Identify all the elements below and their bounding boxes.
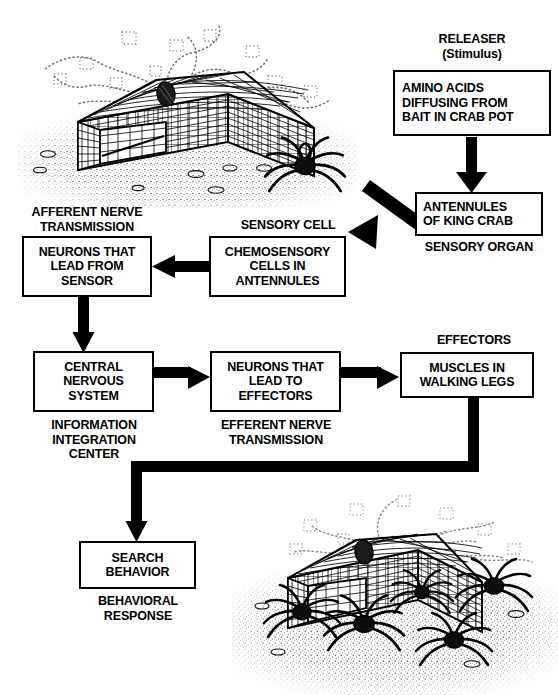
box-cns: CENTRAL NERVOUS SYSTEM <box>33 351 154 412</box>
arrow-cns-to-efferent <box>154 366 210 389</box>
arrow-sensory-cell-to-afferent <box>152 255 209 278</box>
label-behavior: BEHAVIORAL RESPONSE <box>62 594 214 623</box>
box-efferent: NEURONS THAT LEAD TO EFFECTORS <box>210 351 341 412</box>
box-sensory-cell: CHEMOSENSORY CELLS IN ANTENNULES <box>209 236 346 297</box>
box-releaser: AMINO ACIDS DIFFUSING FROM BAIT IN CRAB … <box>393 70 551 136</box>
diagram-canvas: RELEASER (Stimulus) AMINO ACIDS DIFFUSIN… <box>0 0 558 695</box>
box-afferent: NEURONS THAT LEAD FROM SENSOR <box>22 236 152 297</box>
arrow-efferent-to-effectors <box>341 366 399 389</box>
label-effectors: EFFECTORS <box>404 333 544 348</box>
label-releaser: RELEASER (Stimulus) <box>396 32 548 61</box>
label-sensory-cell: SENSORY CELL <box>212 218 364 233</box>
box-effectors: MUSCLES IN WALKING LEGS <box>400 352 534 398</box>
label-afferent: AFFERENT NERVE TRANSMISSION <box>4 205 170 234</box>
box-behavior: SEARCH BEHAVIOR <box>79 541 196 589</box>
label-efferent: EFFERENT NERVE TRANSMISSION <box>196 418 356 447</box>
label-cns: INFORMATION INTEGRATION CENTER <box>18 418 170 462</box>
label-sensory-organ: SENSORY ORGAN <box>401 240 557 255</box>
arrow-afferent-to-cns <box>73 296 95 353</box>
box-sensory-organ: ANTENNULES OF KING CRAB <box>415 192 543 236</box>
arrow-releaser-to-sensory-organ <box>456 137 487 193</box>
